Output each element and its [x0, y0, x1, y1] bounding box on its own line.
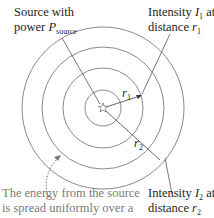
radius-1-label: r1	[122, 86, 131, 101]
source-label-line1: Source with	[14, 5, 77, 20]
distance-1-subscript: 1	[197, 27, 201, 36]
source-label: Source with power Psource	[14, 5, 77, 35]
distance-2-subscript: 2	[197, 208, 201, 217]
wavefront-circle-1	[85, 90, 121, 126]
wavefront-circle-2	[63, 68, 143, 148]
wavefront-circle-4	[22, 27, 184, 189]
intensity-1-label: Intensity I1 at distance r1	[148, 5, 214, 35]
source-star-icon	[98, 103, 107, 112]
power-symbol: P	[48, 20, 56, 34]
intensity-1-prefix: Intensity	[148, 5, 195, 19]
intensity-2-prefix: Intensity	[148, 186, 195, 200]
intensity-2-label: Intensity I2 at distance r2	[148, 186, 214, 216]
caption: The energy from the source is spread uni…	[2, 186, 140, 216]
intensity-2-line1: Intensity I2 at	[148, 186, 214, 201]
intensity-2-line2: distance r2	[148, 201, 214, 216]
source-label-line2: power Psource	[14, 20, 77, 35]
r2-subscript: 2	[139, 143, 143, 152]
intensity-1-leader-line	[142, 34, 170, 94]
caption-line2: is spread uniformly over a	[2, 201, 140, 216]
caption-line1: The energy from the source	[2, 186, 140, 201]
intensity-2-suffix: at	[203, 186, 214, 200]
radius-2-line	[106, 111, 160, 160]
intensity-1-line1: Intensity I1 at	[148, 5, 214, 20]
caption-arrowhead-icon	[54, 155, 61, 161]
radius-2-label: r2	[134, 136, 143, 151]
intensity-1-line2: distance r1	[148, 20, 214, 35]
distance-1-prefix: distance	[148, 20, 192, 34]
r1-subscript: 1	[127, 93, 131, 102]
power-subscript: source	[56, 27, 77, 36]
wavefront-circle-3	[42, 47, 164, 169]
source-prefix: power	[14, 20, 48, 34]
intensity-1-suffix: at	[203, 5, 214, 19]
distance-2-prefix: distance	[148, 201, 192, 215]
